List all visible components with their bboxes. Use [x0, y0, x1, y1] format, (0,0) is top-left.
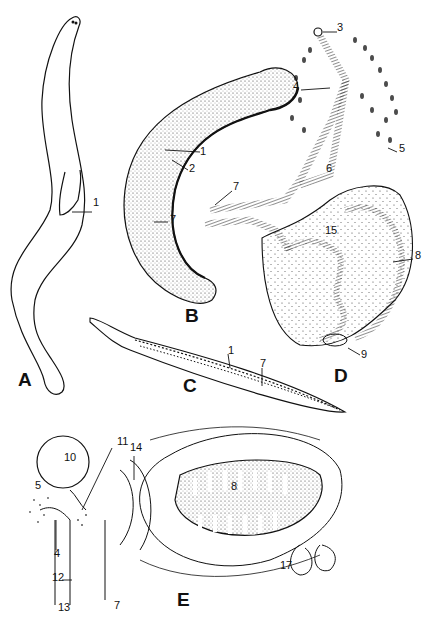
callout-label: 15	[325, 225, 337, 236]
panel-label-e: E	[177, 590, 190, 609]
callout-label: 10	[64, 452, 76, 463]
anatomy-figure	[0, 0, 430, 623]
callout-label: 1	[200, 146, 206, 157]
callout-label: 13	[58, 602, 70, 613]
callout-label: 14	[130, 442, 142, 453]
callout-label: 4	[54, 548, 60, 559]
callout-label: 7	[260, 358, 266, 369]
callout-label: 7	[170, 214, 176, 225]
callout-label: 17	[280, 560, 292, 571]
callout-label: 4	[293, 81, 299, 92]
callout-label: 7	[114, 600, 120, 611]
panel-label-d: D	[334, 366, 348, 385]
callout-label: 9	[361, 349, 367, 360]
panel-label-c: C	[183, 376, 197, 395]
callout-label: 12	[52, 572, 64, 583]
callout-label: 1	[228, 345, 234, 356]
callout-label: 6	[326, 163, 332, 174]
callout-label: 8	[231, 481, 237, 492]
callout-label: 11	[117, 436, 128, 447]
panel-label-b: B	[185, 306, 199, 325]
panel-a-drawing	[11, 17, 92, 395]
callout-label: 3	[337, 22, 343, 33]
callout-label: 5	[399, 143, 405, 154]
callout-label: 2	[189, 163, 195, 174]
callout-label: 7	[233, 181, 239, 192]
panel-label-a: A	[18, 370, 32, 389]
callout-label: 1	[93, 197, 99, 208]
callout-label: 5	[35, 480, 41, 491]
callout-label: 8	[415, 250, 421, 261]
